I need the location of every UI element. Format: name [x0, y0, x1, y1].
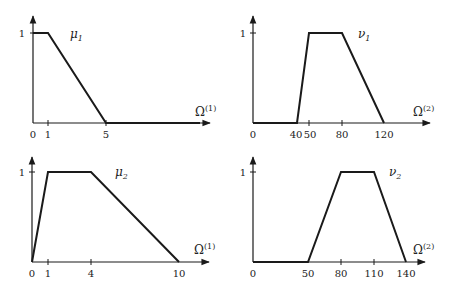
x-tick-label: 80: [335, 268, 348, 279]
x-axis-label: Ω(2): [413, 104, 434, 119]
y-tick-label: 1: [240, 167, 246, 178]
x-tick-label: 0: [29, 268, 35, 279]
x-tick-label: 140: [396, 268, 415, 279]
function-label: μ1: [70, 27, 83, 43]
membership-curve: [253, 33, 384, 123]
x-tick-label: 40: [290, 129, 303, 140]
chart-nu1: 1 0 40 50 80 120 ν1 Ω(2): [240, 16, 435, 140]
y-tick-label: 1: [240, 28, 246, 39]
y-tick-label: 1: [19, 167, 25, 178]
x-tick-label: 50: [302, 268, 315, 279]
x-axis-label: Ω(1): [195, 104, 216, 119]
x-tick-label: 5: [103, 129, 109, 140]
membership-curve: [32, 172, 179, 262]
x-tick-label: 0: [30, 129, 36, 140]
x-tick-label: 0: [250, 268, 256, 279]
membership-curve: [33, 33, 200, 123]
x-tick-label: 120: [374, 129, 393, 140]
chart-mu1: 1 0 1 5 μ1 Ω(1): [19, 16, 217, 140]
x-tick-label: 10: [173, 268, 186, 279]
membership-curve: [253, 172, 406, 262]
x-tick-label: 110: [364, 268, 383, 279]
x-tick-label: 80: [336, 129, 349, 140]
x-tick-label: 1: [45, 268, 51, 279]
x-tick-label: 0: [250, 129, 256, 140]
membership-functions-figure: 1 0 1 5 μ1 Ω(1) 1 0 40 50 80 120 ν1 Ω(2)…: [0, 0, 458, 295]
function-label: μ2: [115, 165, 128, 181]
function-label: ν1: [358, 27, 370, 43]
y-tick-label: 1: [19, 28, 25, 39]
x-axis-label: Ω(1): [194, 242, 215, 257]
x-axis-label: Ω(2): [413, 242, 434, 257]
chart-nu2: 1 0 50 80 110 140 ν2 Ω(2): [240, 157, 435, 279]
x-tick-label: 50: [304, 129, 317, 140]
function-label: ν2: [389, 165, 401, 181]
x-tick-label: 4: [88, 268, 94, 279]
x-tick-label: 1: [45, 129, 51, 140]
chart-mu2: 1 0 1 4 10 μ2 Ω(1): [19, 157, 216, 279]
